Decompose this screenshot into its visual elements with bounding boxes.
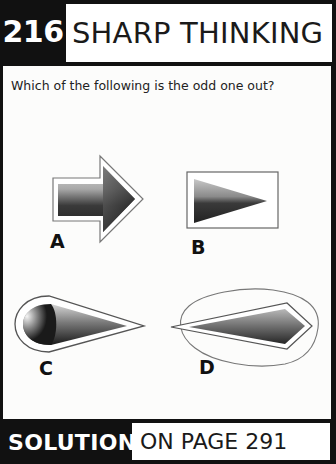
title-box: SHARP THINKING [66,4,332,62]
option-b-label[interactable]: B [191,236,205,258]
option-d-label[interactable]: D [199,356,215,378]
option-a-figure[interactable] [53,156,143,242]
solution-page-ref: ON PAGE 291 [140,423,287,460]
option-b-figure[interactable] [187,172,278,228]
option-c-figure[interactable] [15,296,144,352]
page-ref-box: ON PAGE 291 [132,423,330,460]
option-c-label[interactable]: C [39,357,53,379]
option-a-label[interactable]: A [50,230,65,252]
puzzle-title: SHARP THINKING [72,4,323,62]
puzzle-number: 216 [0,0,66,64]
solution-label: SOLUTION [0,422,132,464]
puzzle-panel: Which of the following is the odd one ou… [3,66,331,419]
